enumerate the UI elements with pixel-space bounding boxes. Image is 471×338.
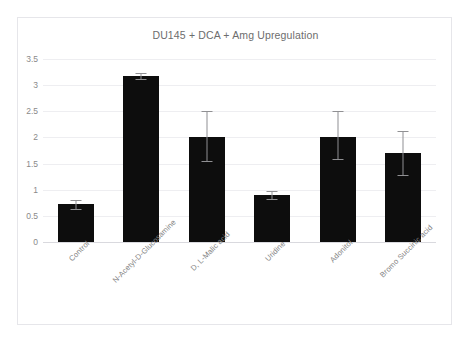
error-bar-cap <box>136 73 147 74</box>
plot-area: 00.511.522.533.5 ControlN-Acetyl-D-Gluco… <box>43 59 436 242</box>
bar[interactable] <box>254 195 290 242</box>
bar-series: ControlN-Acetyl-D-GlucosamineD, L-Malic … <box>43 59 436 242</box>
y-axis-tick-label: 3.5 <box>26 55 38 64</box>
error-bar-cap <box>398 175 409 176</box>
error-bar-cap <box>70 209 81 210</box>
error-bar <box>272 191 273 198</box>
error-bar-cap <box>267 191 278 192</box>
bar-group[interactable]: Bromo Succinic acid <box>371 59 437 242</box>
bar-group[interactable]: Uridine <box>240 59 306 242</box>
y-axis-tick-label: 2.5 <box>26 107 38 116</box>
y-axis-tick-label: 1 <box>33 185 38 194</box>
error-bar-cap <box>332 111 343 112</box>
y-axis-tick-label: 3 <box>33 81 38 90</box>
y-axis-tick-label: 0 <box>33 238 38 247</box>
gridline <box>43 242 436 243</box>
bar-group[interactable]: N-Acetyl-D-Glucosamine <box>109 59 175 242</box>
error-bar-cap <box>201 161 212 162</box>
error-bar <box>337 111 338 159</box>
error-bar-cap <box>201 111 212 112</box>
bar-group[interactable]: Control <box>43 59 109 242</box>
error-bar <box>75 200 76 208</box>
y-axis-tick-label: 2 <box>33 133 38 142</box>
error-bar-cap <box>332 159 343 160</box>
y-axis-tick-label: 1.5 <box>26 159 38 168</box>
error-bar-cap <box>70 200 81 201</box>
chart-title: DU145 + DCA + Amg Upregulation <box>18 29 453 41</box>
chart-container: DU145 + DCA + Amg Upregulation 00.511.52… <box>17 17 452 325</box>
error-bar <box>403 131 404 175</box>
bar-group[interactable]: Adonitol <box>305 59 371 242</box>
bar-group[interactable]: D, L-Malic acid <box>174 59 240 242</box>
error-bar-cap <box>136 79 147 80</box>
error-bar-cap <box>267 199 278 200</box>
error-bar <box>206 111 207 161</box>
error-bar-cap <box>398 131 409 132</box>
y-axis-tick-label: 0.5 <box>26 212 38 221</box>
bar[interactable] <box>58 204 94 242</box>
clipped-page-header <box>0 0 471 5</box>
bar[interactable] <box>123 76 159 242</box>
